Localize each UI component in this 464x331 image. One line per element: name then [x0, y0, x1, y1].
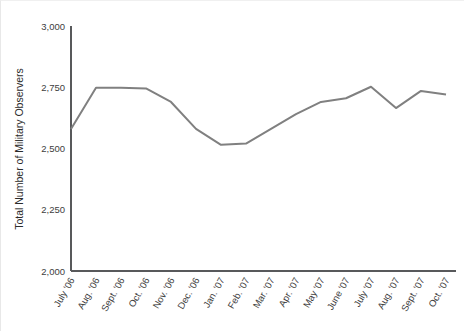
y-tick-label: 2,250: [41, 204, 65, 215]
y-tick-label: 2,500: [41, 143, 65, 154]
x-tick-label: Sept. '06: [99, 276, 127, 314]
series-group: [71, 87, 446, 145]
x-tick-label: Nov. '06: [150, 276, 176, 311]
axis-lines: [71, 26, 456, 271]
x-tick-label: Dec. '06: [175, 276, 202, 311]
x-tick-label: July '07: [351, 276, 376, 309]
x-tick-label: Aug. '06: [75, 276, 102, 311]
x-tick-label: Sept. '07: [399, 276, 427, 314]
line-chart: Total Number of Military Observers 2,000…: [1, 1, 464, 331]
x-tick-label: Mar. '07: [250, 276, 276, 311]
x-tick-label: Oct. '07: [426, 276, 452, 310]
data-line-military-observers: [71, 87, 446, 145]
x-tick-label: July '06: [51, 276, 76, 309]
x-tick-label: Aug. '07: [375, 276, 402, 311]
x-axis-tick-labels: July '06Aug. '06Sept. '06Oct. '06Nov. '0…: [51, 276, 451, 314]
x-tick-label: Oct. '06: [126, 276, 152, 310]
chart-container: Total Number of Military Observers 2,000…: [0, 0, 464, 331]
y-axis-title: Total Number of Military Observers: [13, 68, 25, 230]
x-tick-label: May '07: [301, 276, 327, 310]
y-tick-label: 3,000: [41, 21, 65, 32]
x-tick-label: Feb. '07: [225, 276, 252, 311]
x-tick-label: Jan. '07: [201, 276, 227, 310]
y-tick-label: 2,000: [41, 266, 65, 277]
y-axis-tick-labels: 2,0002,2502,5002,7503,000: [41, 21, 65, 277]
y-tick-label: 2,750: [41, 82, 65, 93]
x-tick-label: June '07: [324, 276, 351, 312]
y-axis-title-group: Total Number of Military Observers: [13, 68, 25, 230]
x-tick-label: Apr. '07: [276, 276, 301, 309]
